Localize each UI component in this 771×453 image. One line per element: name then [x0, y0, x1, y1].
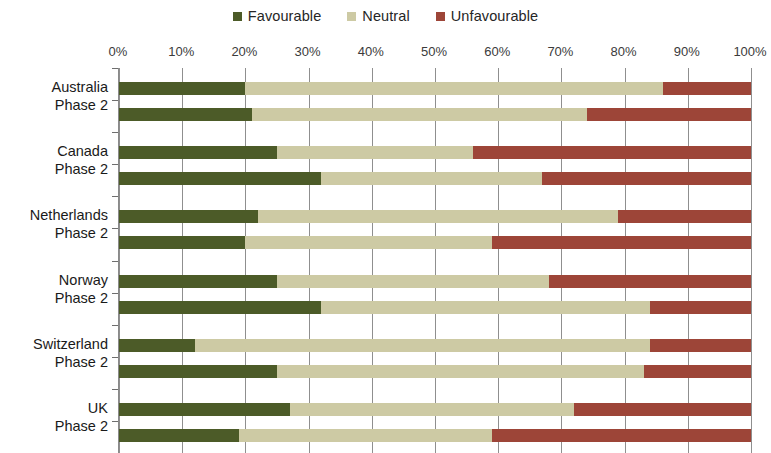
- y-axis-label-netherlands: NetherlandsPhase 2: [0, 206, 108, 242]
- bar-segment-neutral: [277, 146, 473, 159]
- bar-segment-favourable: [119, 82, 245, 95]
- y-axis-tick: [112, 164, 118, 165]
- bar-row: [119, 403, 751, 416]
- bar-segment-unfavourable: [492, 236, 751, 249]
- y-axis-tick: [112, 100, 118, 101]
- legend-label: Neutral: [362, 8, 409, 24]
- y-axis-country-label: Netherlands: [0, 206, 108, 224]
- bar-segment-neutral: [321, 172, 542, 185]
- x-tick-label: 50%: [421, 44, 447, 59]
- bar-row: [119, 275, 751, 288]
- bar-segment-unfavourable: [650, 339, 751, 352]
- y-axis-sublabel: Phase 2: [0, 289, 108, 307]
- y-axis-sublabel: Phase 2: [0, 353, 108, 371]
- bar-segment-favourable: [119, 429, 239, 442]
- gridline: [372, 68, 373, 453]
- x-tick-label: 60%: [484, 44, 510, 59]
- y-axis-sublabel: Phase 2: [0, 224, 108, 242]
- legend-label: Unfavourable: [451, 8, 538, 24]
- bar-segment-unfavourable: [492, 429, 751, 442]
- y-axis-label-canada: CanadaPhase 2: [0, 142, 108, 178]
- bar-row: [119, 210, 751, 223]
- chart-legend: FavourableNeutralUnfavourable: [0, 8, 771, 24]
- x-tick-label: 70%: [547, 44, 573, 59]
- y-axis-tick: [112, 68, 118, 69]
- legend-swatch-icon: [347, 12, 356, 21]
- x-tick-label: 90%: [674, 44, 700, 59]
- bar-segment-neutral: [245, 236, 491, 249]
- gridline: [182, 68, 183, 453]
- legend-swatch-icon: [233, 12, 242, 21]
- bar-row: [119, 172, 751, 185]
- bar-segment-neutral: [245, 82, 662, 95]
- bar-segment-favourable: [119, 365, 277, 378]
- x-tick-label: 0%: [109, 44, 128, 59]
- gridline: [561, 68, 562, 453]
- bar-segment-neutral: [252, 108, 587, 121]
- bar-segment-favourable: [119, 236, 245, 249]
- y-axis-tick: [112, 261, 118, 262]
- bar-segment-neutral: [290, 403, 574, 416]
- bar-row: [119, 339, 751, 352]
- bar-segment-neutral: [277, 275, 549, 288]
- gridline: [309, 68, 310, 453]
- bar-segment-neutral: [239, 429, 492, 442]
- legend-item-favourable: Favourable: [233, 8, 322, 24]
- gridline: [498, 68, 499, 453]
- bar-segment-unfavourable: [542, 172, 751, 185]
- y-axis-tick: [112, 357, 118, 358]
- gridline: [245, 68, 246, 453]
- bar-row: [119, 365, 751, 378]
- bar-segment-favourable: [119, 172, 321, 185]
- legend-label: Favourable: [248, 8, 322, 24]
- bar-segment-unfavourable: [650, 301, 751, 314]
- bar-row: [119, 82, 751, 95]
- y-axis-country-label: Canada: [0, 142, 108, 160]
- bar-segment-unfavourable: [644, 365, 751, 378]
- bar-segment-neutral: [277, 365, 644, 378]
- bar-segment-unfavourable: [473, 146, 751, 159]
- y-axis-tick: [112, 293, 118, 294]
- y-axis-sublabel: Phase 2: [0, 96, 108, 114]
- bar-segment-unfavourable: [574, 403, 751, 416]
- legend-item-neutral: Neutral: [347, 8, 409, 24]
- legend-item-unfavourable: Unfavourable: [436, 8, 538, 24]
- y-axis-label-switzerland: SwitzerlandPhase 2: [0, 335, 108, 371]
- bar-segment-unfavourable: [549, 275, 751, 288]
- y-axis-label-australia: AustraliaPhase 2: [0, 78, 108, 114]
- y-axis-label-norway: NorwayPhase 2: [0, 271, 108, 307]
- x-tick-label: 40%: [358, 44, 384, 59]
- y-axis-tick: [112, 132, 118, 133]
- legend-swatch-icon: [436, 12, 445, 21]
- y-axis-tick: [112, 421, 118, 422]
- y-axis-category-labels: AustraliaPhase 2CanadaPhase 2Netherlands…: [0, 68, 114, 453]
- x-tick-label: 100%: [733, 44, 766, 59]
- x-tick-label: 30%: [295, 44, 321, 59]
- y-axis-country-label: UK: [0, 399, 108, 417]
- bar-segment-unfavourable: [618, 210, 751, 223]
- x-axis-tick-labels: 0%10%20%30%40%50%60%70%80%90%100%: [118, 44, 750, 62]
- gridline: [688, 68, 689, 453]
- y-axis-sublabel: Phase 2: [0, 160, 108, 178]
- gridline: [435, 68, 436, 453]
- bar-segment-favourable: [119, 108, 252, 121]
- gridline: [625, 68, 626, 453]
- plot-area: [118, 68, 750, 453]
- bar-segment-unfavourable: [663, 82, 751, 95]
- bar-segment-favourable: [119, 210, 258, 223]
- bar-row: [119, 236, 751, 249]
- bar-segment-favourable: [119, 146, 277, 159]
- bar-row: [119, 429, 751, 442]
- y-axis-sublabel: Phase 2: [0, 417, 108, 435]
- y-axis-country-label: Switzerland: [0, 335, 108, 353]
- bar-segment-favourable: [119, 275, 277, 288]
- bar-segment-favourable: [119, 339, 195, 352]
- y-axis-tick: [112, 389, 118, 390]
- gridline: [751, 68, 752, 453]
- y-axis-country-label: Australia: [0, 78, 108, 96]
- bar-row: [119, 301, 751, 314]
- bar-segment-favourable: [119, 403, 290, 416]
- y-axis-country-label: Norway: [0, 271, 108, 289]
- bar-row: [119, 146, 751, 159]
- gridline: [119, 68, 120, 453]
